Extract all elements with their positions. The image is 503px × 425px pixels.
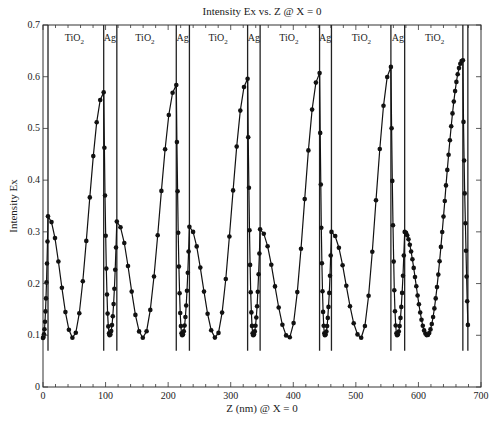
x-tick-label: 600	[411, 390, 426, 401]
data-point-marker	[444, 183, 449, 188]
data-point-marker	[280, 323, 285, 328]
data-point-marker	[433, 296, 438, 301]
data-point-marker	[351, 321, 356, 326]
data-point-marker	[101, 90, 106, 95]
data-point-marker	[276, 305, 281, 310]
x-tick-label: 500	[348, 390, 363, 401]
data-point-marker	[209, 328, 214, 333]
data-point-marker	[410, 257, 415, 262]
data-point-marker	[177, 264, 182, 269]
data-point-marker	[213, 335, 218, 340]
data-point-marker	[318, 131, 323, 136]
x-axis-ticks: 0100200300400500600700	[41, 25, 489, 401]
data-point-marker	[113, 268, 118, 273]
data-point-marker	[310, 107, 315, 112]
intensity-chart: Intensity Ex vs. Z @ X = 0 TiO2AgTiO2AgT…	[0, 0, 503, 425]
data-point-marker	[255, 290, 260, 295]
data-point-marker	[455, 72, 460, 77]
x-tick-label: 100	[98, 390, 113, 401]
data-point-marker	[182, 329, 187, 334]
data-point-marker	[385, 75, 390, 80]
data-point-marker	[431, 315, 436, 320]
data-point-marker	[437, 259, 442, 264]
data-point-marker	[137, 329, 142, 334]
data-point-marker	[254, 315, 259, 320]
data-point-marker	[238, 108, 243, 113]
data-point-marker	[63, 310, 68, 315]
data-point-marker	[152, 274, 157, 279]
data-point-marker	[295, 290, 300, 295]
data-point-marker	[393, 323, 398, 328]
data-point-marker	[115, 219, 120, 224]
data-point-marker	[389, 65, 394, 70]
data-point-marker	[205, 312, 210, 317]
data-point-marker	[344, 284, 349, 289]
data-point-marker	[84, 239, 89, 244]
data-point-marker	[390, 179, 395, 184]
data-point-marker	[105, 311, 110, 316]
data-point-marker	[178, 311, 183, 316]
data-point-marker	[249, 310, 254, 315]
data-point-marker	[194, 244, 199, 249]
data-point-marker	[102, 145, 107, 150]
data-point-marker	[234, 144, 239, 149]
data-point-marker	[81, 279, 86, 284]
y-axis-label: Intensity Ex	[7, 179, 19, 233]
data-point-marker	[391, 223, 396, 228]
region-label: TiO2	[279, 32, 299, 46]
region-label: Ag	[319, 32, 331, 43]
data-point-marker	[405, 233, 410, 238]
data-point-marker	[337, 245, 342, 250]
data-point-marker	[186, 271, 191, 276]
data-point-marker	[409, 249, 414, 254]
data-point-marker	[185, 289, 190, 294]
data-point-marker	[327, 291, 332, 296]
data-point-marker	[247, 228, 252, 233]
data-point-marker	[177, 291, 182, 296]
data-point-marker	[248, 290, 253, 295]
data-point-marker	[397, 329, 402, 334]
data-point-marker	[191, 230, 196, 235]
data-point-marker	[163, 147, 168, 152]
data-point-marker	[253, 324, 258, 329]
data-point-marker	[299, 246, 304, 251]
data-point-marker	[273, 284, 278, 289]
data-series	[41, 58, 471, 340]
data-point-marker	[370, 249, 375, 254]
data-point-marker	[148, 308, 153, 313]
data-point-marker	[288, 335, 293, 340]
data-point-marker	[70, 335, 75, 340]
data-point-marker	[186, 249, 191, 254]
x-tick-label: 700	[474, 390, 489, 401]
data-point-marker	[397, 324, 402, 329]
data-point-marker	[453, 89, 458, 94]
data-point-marker	[355, 332, 360, 337]
data-point-marker	[46, 214, 51, 219]
region-label: TiO2	[65, 32, 85, 46]
data-point-marker	[175, 189, 180, 194]
data-point-marker	[402, 253, 407, 258]
region-label: Ag	[392, 32, 404, 43]
data-point-marker	[436, 272, 441, 277]
data-point-marker	[440, 230, 445, 235]
data-point-marker	[389, 126, 394, 131]
data-point-marker	[398, 316, 403, 321]
data-point-marker	[155, 233, 160, 238]
data-point-marker	[45, 261, 50, 266]
data-point-marker	[242, 85, 247, 90]
data-point-marker	[94, 120, 99, 125]
data-point-marker	[393, 309, 398, 314]
data-point-marker	[257, 251, 262, 256]
data-point-marker	[56, 259, 61, 264]
data-point-marker	[103, 233, 108, 238]
data-point-marker	[454, 80, 459, 85]
data-point-marker	[104, 266, 109, 271]
data-point-marker	[256, 272, 261, 277]
data-point-marker	[328, 253, 333, 258]
data-point-marker	[144, 329, 149, 334]
data-point-marker	[224, 277, 229, 282]
y-tick-label: 0.3	[28, 226, 41, 237]
data-point-marker	[118, 225, 123, 230]
data-point-marker	[167, 113, 172, 118]
data-point-marker	[67, 328, 72, 333]
